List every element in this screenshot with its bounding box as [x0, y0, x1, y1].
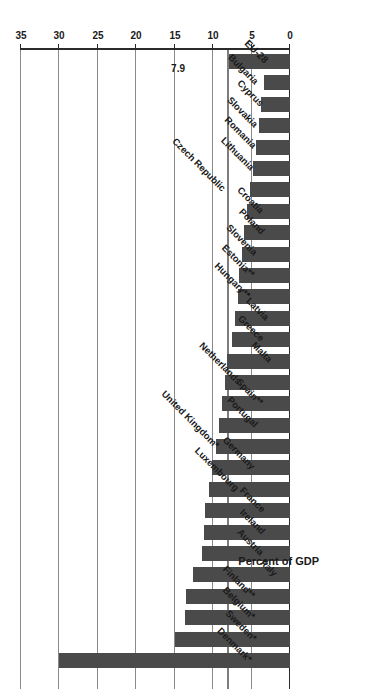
bar-slovakia [259, 118, 290, 133]
x-tick-0 [289, 44, 290, 50]
x-tick-30 [58, 44, 59, 50]
x-tick-label-30: 30 [39, 30, 79, 41]
x-tick-20 [135, 44, 136, 50]
bar-row [21, 350, 290, 371]
x-tick-label-25: 25 [78, 30, 118, 41]
bar-romania [256, 140, 290, 155]
x-tick-25 [97, 44, 98, 50]
x-tick-label-10: 10 [193, 30, 233, 41]
bar-bulgaria [264, 75, 290, 90]
x-tick-15 [174, 44, 175, 50]
bar-row [21, 564, 290, 585]
bar-lithuania [253, 161, 290, 176]
x-tick-35 [20, 44, 21, 50]
bar-row [21, 436, 290, 457]
x-tick-label-15: 15 [155, 30, 195, 41]
x-tick-label-35: 35 [1, 30, 41, 41]
x-tick-label-0: 0 [270, 30, 310, 41]
x-tick-10 [212, 44, 213, 50]
chart-canvas: 05101520253035 Denmark*Sweden*Belgium*Fi… [0, 0, 371, 689]
bar-czech-republic [250, 182, 290, 197]
x-tick-label-20: 20 [116, 30, 156, 41]
bar-denmark [59, 653, 290, 668]
value-label-eu-28: 7.9 [171, 63, 185, 74]
x-axis-title: Percent of GDP [238, 555, 319, 567]
